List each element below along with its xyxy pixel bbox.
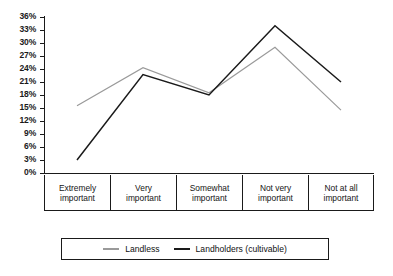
x-axis-category-label-line2: important	[126, 193, 161, 203]
series-line-landless	[77, 47, 341, 110]
x-axis-category-4: Not veryimportant	[242, 175, 308, 211]
x-axis-category-label-line2: important	[60, 193, 95, 203]
x-axis-category-label-line2: important	[258, 193, 293, 203]
x-axis-category-label-line1: Not very	[260, 183, 291, 193]
legend-item-landholders: Landholders (cultivable)	[174, 244, 287, 254]
x-axis-category-3: Somewhatimportant	[176, 175, 242, 211]
x-axis-category-label-line1: Not at all	[324, 183, 357, 193]
x-axis-category-5: Not at allimportant	[308, 175, 374, 211]
line-chart: 0%3%6%9%12%15%18%21%24%27%30%33%36% Extr…	[0, 0, 393, 276]
chart-legend: Landless Landholders (cultivable)	[61, 238, 329, 260]
legend-label-landless: Landless	[125, 244, 159, 254]
x-axis-category-label-line2: important	[192, 193, 227, 203]
plot-area	[0, 0, 393, 276]
x-axis-category-label-line1: Somewhat	[190, 183, 230, 193]
legend-swatch-landless	[103, 248, 119, 250]
x-axis-category-label-line1: Extremely	[59, 183, 96, 193]
legend-swatch-landholders	[174, 248, 190, 250]
x-axis-category-underline	[44, 210, 374, 211]
x-axis-category-2: Veryimportant	[110, 175, 176, 211]
x-axis-category-label-line1: Very	[135, 183, 152, 193]
x-axis-category-label-line2: important	[324, 193, 359, 203]
x-axis-category-1: Extremelyimportant	[44, 175, 110, 211]
legend-item-landless: Landless	[103, 244, 159, 254]
legend-label-landholders: Landholders (cultivable)	[196, 244, 287, 254]
